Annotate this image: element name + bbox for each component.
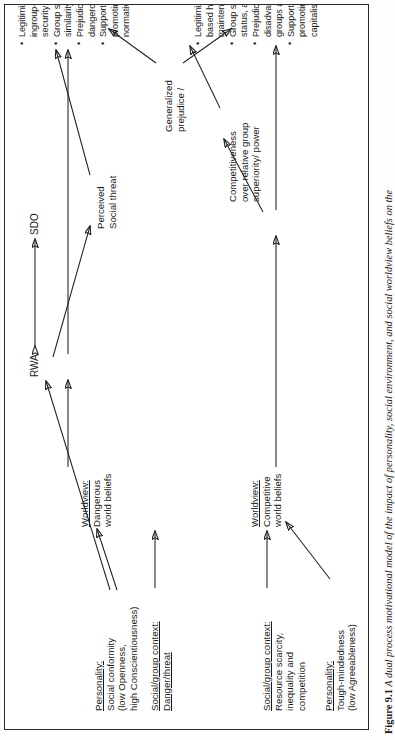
figure-caption: Figure 9.1 A dual process motivational m… bbox=[367, 0, 395, 740]
diagram-connectors bbox=[5, 5, 368, 729]
node-rwa: RWA bbox=[29, 354, 41, 377]
context-left-body: Danger/threat bbox=[161, 652, 172, 711]
diagram-canvas: Personality: Social conformity (low Open… bbox=[5, 5, 368, 729]
list-item: Legitimizing myths relating to group-bas… bbox=[193, 4, 228, 45]
node-worldview-left: Worldview: Dangerous world beliefs bbox=[79, 457, 114, 527]
list-item: Prejudice toward dissident, disadvantage… bbox=[251, 4, 286, 45]
node-context-right: Social/group context: Resource scarcity,… bbox=[261, 581, 307, 711]
list-item: Group stratification: competence, status… bbox=[228, 4, 251, 45]
personality-right-header: Personality: bbox=[323, 661, 334, 711]
node-perceived-social-threat: Perceived Social threat bbox=[95, 159, 118, 229]
node-sdo: SDO bbox=[29, 213, 41, 235]
wire-personality-right-to-worldview bbox=[286, 522, 330, 579]
node-context-left: Social/group context: Danger/threat bbox=[149, 581, 172, 711]
context-right-header: Social/group context: bbox=[261, 621, 272, 711]
node-worldview-right: Worldview: Competitive world beliefs bbox=[249, 457, 284, 527]
list-item: Supportive of leaders and policies promo… bbox=[286, 4, 321, 45]
worldview-right-body: Competitive world beliefs bbox=[261, 474, 284, 527]
context-right-body: Resource scarcity, inequality and compet… bbox=[273, 633, 307, 711]
figure-number: Figure 9.1 bbox=[383, 689, 394, 734]
list-item: Legitimizing myths relating to ingroup-c… bbox=[17, 4, 52, 45]
worldview-left-body: Dangerous world beliefs bbox=[91, 474, 114, 527]
personality-left-body: Social conformity (low Openness, high Co… bbox=[105, 606, 139, 711]
caption-text-line: Figure 9.1 A dual process motivational m… bbox=[383, 190, 395, 740]
list-item: Prejudice toward deviant and dangerous g… bbox=[75, 4, 98, 45]
personality-left-header: Personality: bbox=[93, 661, 104, 711]
figure-caption-text: A dual process motivational model of the… bbox=[383, 190, 394, 687]
figure-frame: Personality: Social conformity (low Open… bbox=[4, 4, 369, 730]
node-competitiveness: Competitiveness over relative group supe… bbox=[227, 92, 262, 202]
worldview-right-header: Worldview: bbox=[249, 480, 260, 527]
list-item: Supportive of leaders and policies promo… bbox=[98, 4, 133, 45]
wire-threat-to-outcomes-left bbox=[56, 50, 90, 175]
wire-competitiveness-to-outcomes-right bbox=[190, 46, 220, 108]
context-left-header: Social/group context: bbox=[149, 621, 160, 711]
figure-page: Personality: Social conformity (low Open… bbox=[0, 0, 395, 740]
node-personality-left: Personality: Social conformity (low Open… bbox=[93, 581, 139, 711]
wire-rwa-to-threat bbox=[53, 226, 90, 357]
worldview-left-header: Worldview: bbox=[79, 480, 90, 527]
figure-caption-wrap: Figure 9.1 A dual process motivational m… bbox=[367, 0, 395, 740]
node-generalized-prejudice: Generalized prejudice / bbox=[163, 40, 186, 132]
personality-right-body: Tough-mindedness (low Agreeableness) bbox=[335, 624, 358, 711]
list-item: Group stratification: moral and value-si… bbox=[52, 4, 75, 45]
node-personality-right: Personality: Tough-mindedness (low Agree… bbox=[323, 579, 358, 711]
